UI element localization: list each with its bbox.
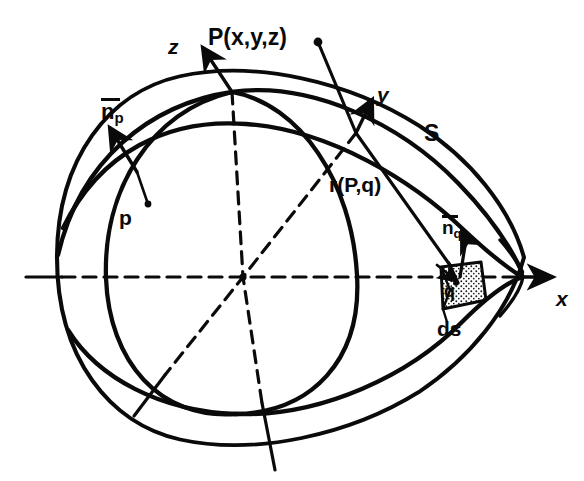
axis-label-y: y bbox=[377, 84, 389, 105]
surface-outline bbox=[57, 71, 524, 445]
surface-point-p-dot bbox=[145, 201, 152, 208]
surface-geometry-figure: z y x P(x,y,z) S r(P,q) p q ds np nq bbox=[0, 0, 584, 481]
normal-p-label: np bbox=[101, 101, 124, 125]
axis-label-x: x bbox=[556, 288, 568, 309]
axis-z-interior-dashed bbox=[232, 92, 262, 403]
normal-q-base: n bbox=[442, 217, 454, 238]
field-point-dot bbox=[314, 38, 323, 47]
axis-origin-marker bbox=[239, 273, 246, 280]
surface-point-q-label: q bbox=[444, 282, 455, 300]
surface-point-p-label: p bbox=[119, 207, 132, 228]
figure-canvas bbox=[0, 0, 584, 481]
axis-z bbox=[203, 48, 275, 470]
distance-line-r bbox=[314, 38, 452, 268]
area-element-label: ds bbox=[437, 318, 462, 339]
normal-q-overbar bbox=[442, 215, 458, 218]
surface-label: S bbox=[424, 122, 439, 145]
normal-p-subscript: p bbox=[114, 109, 123, 126]
normal-q-subscript: q bbox=[454, 226, 462, 241]
field-point-label: P(x,y,z) bbox=[208, 26, 287, 49]
normal-q-label: nq bbox=[442, 218, 462, 240]
axis-y-interior-dashed bbox=[165, 133, 356, 375]
axis-label-z: z bbox=[168, 36, 179, 57]
normal-p-base: n bbox=[101, 99, 114, 124]
normal-p-overbar bbox=[101, 98, 120, 101]
distance-label: r(P,q) bbox=[329, 174, 381, 195]
